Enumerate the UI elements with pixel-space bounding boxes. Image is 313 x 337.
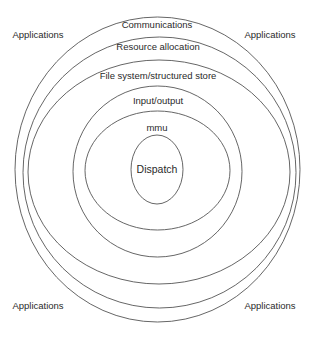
input-output-label: Input/output [133, 95, 183, 106]
applications-top-left: Applications [12, 29, 63, 40]
dispatch-label: Dispatch [137, 164, 178, 175]
applications-bottom-left: Applications [12, 300, 63, 311]
resource-allocation-label: Resource allocation [116, 41, 199, 52]
communications-label: Communications [122, 19, 193, 30]
applications-bottom-right: Applications [244, 300, 295, 311]
applications-top-right: Applications [244, 29, 295, 40]
file-system-label: File system/structured store [100, 70, 217, 81]
mmu-label: mmu [146, 122, 167, 133]
